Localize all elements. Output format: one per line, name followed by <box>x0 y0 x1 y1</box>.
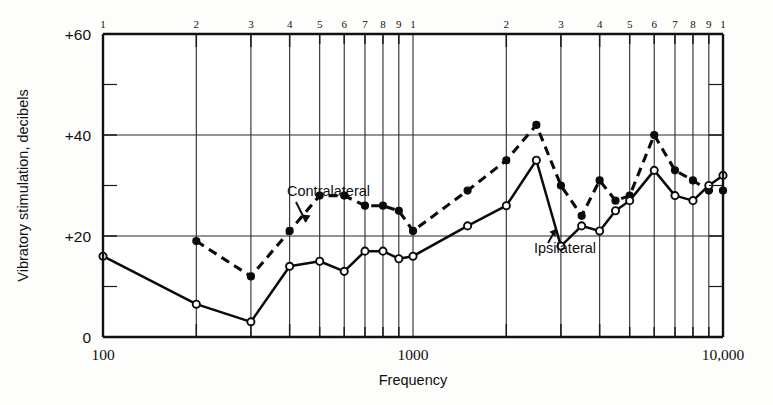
tick-label-top: 8 <box>690 18 696 30</box>
y-axis-title: Vibratory stimulation, decibels <box>15 89 31 281</box>
chart-canvas: 12345678912345678910+20+40+60100100010,0… <box>0 0 773 405</box>
data-point-ipsilateral <box>503 202 510 209</box>
data-point-contralateral <box>558 182 565 189</box>
tick-label-top: 8 <box>380 18 386 30</box>
vibratory-stimulation-chart: 12345678912345678910+20+40+60100100010,0… <box>0 0 773 405</box>
data-point-contralateral <box>410 228 417 235</box>
data-point-contralateral <box>651 132 658 139</box>
annotation-ipsilateral-label: Ipsilateral <box>534 240 596 256</box>
data-point-ipsilateral <box>286 263 293 270</box>
tick-label-top: 5 <box>317 18 323 30</box>
tick-label-top: 1 <box>100 18 106 30</box>
data-point-contralateral <box>464 187 471 194</box>
data-point-contralateral <box>380 202 387 209</box>
tick-label-top: 4 <box>287 18 293 30</box>
x-axis-tick-label: 100 <box>91 346 115 363</box>
annotation-contralateral-label: Contralateral <box>287 183 370 199</box>
tick-label-top: 2 <box>194 18 200 30</box>
y-tick-label: +20 <box>65 228 92 245</box>
tick-label-top: 3 <box>248 18 254 30</box>
tick-label-top: 4 <box>597 18 603 30</box>
data-point-ipsilateral <box>395 255 402 262</box>
data-point-contralateral <box>612 197 619 204</box>
tick-label-top: 7 <box>362 18 368 30</box>
data-point-ipsilateral <box>626 197 633 204</box>
data-point-contralateral <box>193 238 200 245</box>
data-point-contralateral <box>533 122 540 129</box>
data-point-contralateral <box>286 228 293 235</box>
data-point-ipsilateral <box>379 248 386 255</box>
y-tick-label: +60 <box>65 26 92 43</box>
data-point-ipsilateral <box>341 268 348 275</box>
tick-label-top: 6 <box>651 18 657 30</box>
y-tick-label: +40 <box>65 127 92 144</box>
tick-label-top: 1 <box>720 18 726 30</box>
tick-label-top: 9 <box>706 18 712 30</box>
data-point-contralateral <box>248 273 255 280</box>
data-point-ipsilateral <box>671 192 678 199</box>
data-point-ipsilateral <box>651 167 658 174</box>
data-point-contralateral <box>672 167 679 174</box>
tick-label-top: 5 <box>627 18 633 30</box>
data-point-ipsilateral <box>578 222 585 229</box>
x-axis-tick-label: 10,000 <box>702 346 745 363</box>
tick-label-top: 1 <box>410 18 416 30</box>
data-point-contralateral <box>596 177 603 184</box>
data-point-contralateral <box>578 212 585 219</box>
data-point-contralateral <box>362 202 369 209</box>
tick-label-top: 7 <box>672 18 678 30</box>
x-axis-tick-label: 1000 <box>398 346 429 363</box>
tick-label-top: 9 <box>396 18 402 30</box>
x-axis-title: Frequency <box>379 372 448 388</box>
data-point-contralateral <box>395 207 402 214</box>
data-point-ipsilateral <box>533 157 540 164</box>
data-point-ipsilateral <box>689 197 696 204</box>
data-point-ipsilateral <box>464 222 471 229</box>
data-point-ipsilateral <box>193 301 200 308</box>
data-point-contralateral <box>690 177 697 184</box>
data-point-ipsilateral <box>361 248 368 255</box>
tick-label-top: 3 <box>558 18 564 30</box>
data-point-ipsilateral <box>316 258 323 265</box>
tick-label-top: 6 <box>341 18 347 30</box>
data-point-ipsilateral <box>612 207 619 214</box>
data-point-contralateral <box>503 157 510 164</box>
tick-label-top: 2 <box>504 18 510 30</box>
y-tick-label: 0 <box>82 329 91 346</box>
data-point-ipsilateral <box>596 227 603 234</box>
data-point-ipsilateral <box>409 253 416 260</box>
